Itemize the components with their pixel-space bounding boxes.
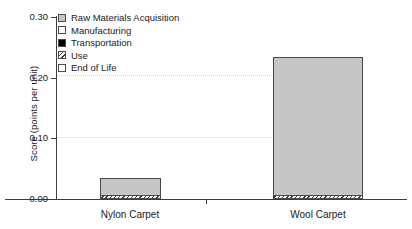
- y-tick-label-0.20: 0.20: [30, 72, 49, 83]
- legend-item-manufacturing: Manufacturing: [58, 25, 179, 36]
- y-axis-line: [56, 16, 57, 200]
- legend-swatch-icon-raw-materials-acquisition: [58, 14, 66, 22]
- legend-swatch-icon-use: [58, 51, 66, 59]
- bar-chart: Score (points per unit) 0.30 0.20 0.10 0…: [0, 0, 412, 229]
- legend-item-use: Use: [58, 50, 179, 61]
- legend-swatch-icon-manufacturing: [58, 26, 66, 34]
- bar-segment-wool-raw-materials-acquisition: [273, 57, 363, 196]
- bar-nylon-carpet: [100, 178, 161, 199]
- y-tick-label-0.30: 0.30: [30, 11, 49, 22]
- y-tick-mark-0.10: [51, 138, 57, 139]
- legend-swatch-icon-transportation: [58, 39, 66, 47]
- y-tick-label-0.00: 0.00: [30, 193, 49, 204]
- x-tick-label-wool-carpet: Wool Carpet: [258, 209, 378, 220]
- legend-label-transportation: Transportation: [71, 37, 132, 48]
- legend-item-raw-materials-acquisition: Raw Materials Acquisition: [58, 12, 179, 23]
- bar-segment-wool-use: [273, 195, 363, 199]
- legend-swatch-icon-end-of-life: [58, 64, 66, 72]
- x-tick-label-nylon-carpet: Nylon Carpet: [70, 209, 190, 220]
- y-axis-title: Score (points per unit): [28, 19, 39, 209]
- y-tick-mark-0.30: [51, 17, 57, 18]
- legend: Raw Materials Acquisition Manufacturing …: [58, 12, 179, 75]
- legend-item-transportation: Transportation: [58, 37, 179, 48]
- y-tick-label-0.10: 0.10: [30, 132, 49, 143]
- bar-wool-carpet: [273, 57, 363, 199]
- legend-label-raw-materials-acquisition: Raw Materials Acquisition: [71, 12, 179, 23]
- bar-segment-nylon-use: [100, 195, 161, 199]
- y-tick-mark-0.00: [51, 199, 57, 200]
- legend-item-end-of-life: End of Life: [58, 62, 179, 73]
- y-tick-mark-0.20: [51, 78, 57, 79]
- bar-segment-nylon-raw-materials-acquisition: [100, 178, 161, 196]
- legend-label-end-of-life: End of Life: [71, 62, 116, 73]
- legend-label-use: Use: [71, 50, 88, 61]
- legend-label-manufacturing: Manufacturing: [71, 25, 131, 36]
- x-tick-mark-center: [206, 199, 207, 204]
